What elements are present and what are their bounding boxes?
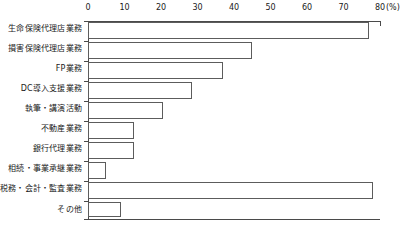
x-tick-label-30: 30 (192, 3, 202, 13)
x-tick-label-10: 10 (119, 3, 129, 13)
category-label-1: 損害保険代理店業務 (8, 44, 82, 54)
x-tick-label-50: 50 (265, 3, 275, 13)
category-label-7: 相続・事業承継業務 (8, 164, 82, 174)
x-axis-unit-label: (%) (386, 3, 400, 13)
x-tick-label-20: 20 (156, 3, 166, 13)
x-tick-label-80: 80 (375, 3, 385, 13)
bar-7 (88, 162, 106, 179)
category-label-0: 生命保険代理店業務 (8, 24, 82, 34)
x-tick-label-60: 60 (302, 3, 312, 13)
category-label-4: 執筆・講演活動 (25, 104, 82, 114)
bar-2 (88, 62, 223, 79)
bar-3 (88, 82, 192, 99)
bar-0 (88, 22, 369, 39)
x-tick-label-70: 70 (338, 3, 348, 13)
category-label-8: 税務・会計・監査業務 (0, 184, 82, 194)
bar-4 (88, 102, 163, 119)
category-label-9: その他 (57, 205, 82, 215)
category-label-2: FP業務 (56, 64, 82, 74)
category-label-3: DC導入支援業務 (21, 84, 82, 94)
x-tick-80 (380, 21, 381, 26)
category-label-5: 不動産業務 (41, 124, 82, 134)
bar-5 (88, 122, 134, 139)
bar-9 (88, 202, 121, 217)
x-tick-label-0: 0 (85, 3, 90, 13)
bar-8 (88, 182, 373, 199)
bar-6 (88, 142, 134, 159)
y-tick-10 (84, 219, 88, 220)
category-label-6: 銀行代理業務 (33, 144, 82, 154)
bottom-axis-line (88, 219, 380, 220)
x-tick-label-40: 40 (229, 3, 239, 13)
horizontal-bar-chart: 0 10 20 30 40 50 60 70 80 (%) 生命保険代理店業務 … (0, 0, 409, 245)
bar-1 (88, 42, 252, 59)
